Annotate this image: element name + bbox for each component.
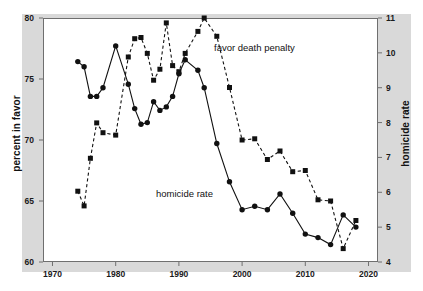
data-point-marker xyxy=(278,149,283,154)
data-point-marker xyxy=(202,16,207,21)
data-point-marker xyxy=(303,168,308,173)
data-point-marker xyxy=(195,68,200,73)
data-point-marker xyxy=(101,130,106,135)
data-point-marker xyxy=(252,204,257,209)
data-point-marker xyxy=(265,157,270,162)
data-point-marker xyxy=(214,141,219,146)
data-point-marker xyxy=(75,59,80,64)
data-point-marker xyxy=(290,169,295,174)
data-point-marker xyxy=(176,71,181,76)
data-point-marker xyxy=(202,85,207,90)
data-point-marker xyxy=(277,191,282,196)
data-point-marker xyxy=(88,94,93,99)
data-point-marker xyxy=(303,231,308,236)
data-point-marker xyxy=(82,203,87,208)
series-canvas xyxy=(0,0,423,291)
data-point-marker xyxy=(126,55,131,60)
chart-figure: percent in favor homicide rate 606570758… xyxy=(0,0,423,291)
data-point-marker xyxy=(81,64,86,69)
data-point-marker xyxy=(170,94,175,99)
data-point-marker xyxy=(151,78,156,83)
series-label-favor-death-penalty: favor death penalty xyxy=(214,42,295,53)
data-point-marker xyxy=(227,85,232,90)
data-point-marker xyxy=(353,218,358,223)
data-point-marker xyxy=(126,82,131,87)
data-point-marker xyxy=(183,51,188,56)
data-point-marker xyxy=(151,99,156,104)
data-point-marker xyxy=(240,138,245,143)
data-point-marker xyxy=(145,120,150,125)
data-point-marker xyxy=(290,211,295,216)
data-point-marker xyxy=(75,189,80,194)
data-point-marker xyxy=(183,57,188,62)
data-point-marker xyxy=(164,104,169,109)
data-point-marker xyxy=(94,94,99,99)
series-label-homicide-rate: homicide rate xyxy=(156,188,213,199)
data-point-marker xyxy=(94,120,99,125)
data-point-marker xyxy=(88,156,93,161)
data-point-marker xyxy=(341,212,346,217)
data-point-marker xyxy=(316,197,321,202)
data-point-marker xyxy=(353,224,358,229)
data-point-marker xyxy=(138,122,143,127)
data-point-marker xyxy=(227,179,232,184)
data-point-marker xyxy=(100,85,105,90)
series-homicide-rate xyxy=(75,43,358,247)
data-point-marker xyxy=(157,67,162,72)
data-point-marker xyxy=(214,34,219,39)
data-point-marker xyxy=(113,133,118,138)
data-point-marker xyxy=(132,36,137,41)
data-point-marker xyxy=(132,106,137,111)
data-point-marker xyxy=(328,199,333,204)
data-point-marker xyxy=(139,35,144,40)
data-point-marker xyxy=(113,43,118,48)
data-point-marker xyxy=(328,242,333,247)
data-point-marker xyxy=(341,246,346,251)
data-point-marker xyxy=(265,207,270,212)
data-point-marker xyxy=(315,235,320,240)
data-point-marker xyxy=(239,207,244,212)
data-point-marker xyxy=(164,20,169,25)
data-point-marker xyxy=(170,63,175,68)
data-point-marker xyxy=(157,108,162,113)
data-point-marker xyxy=(195,29,200,34)
data-point-marker xyxy=(252,136,257,141)
data-point-marker xyxy=(145,51,150,56)
